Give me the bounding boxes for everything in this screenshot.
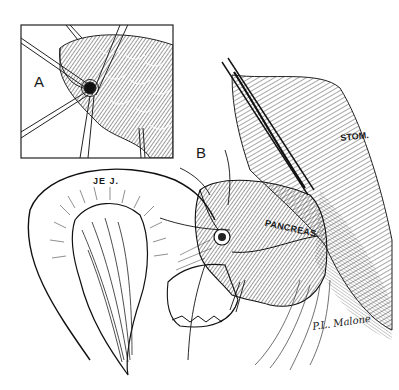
surgical-illustration: A B JE J. PANCREAS STOM. P.L. Malone: [0, 0, 399, 390]
jejunum-label: JE J.: [93, 177, 119, 186]
panel-label-a: A: [34, 74, 44, 89]
illustration-artwork: [0, 0, 399, 390]
panel-label-b: B: [196, 145, 206, 160]
